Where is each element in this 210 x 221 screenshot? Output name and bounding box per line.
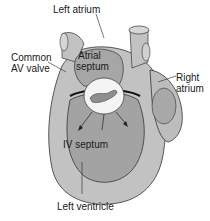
- label-iv-septum: IV septum: [63, 139, 108, 150]
- heart-illustration: [0, 0, 210, 221]
- vessel-left-opening: [60, 33, 68, 51]
- label-atrial-septum-1: Atrial: [78, 50, 101, 61]
- label-common-av-valve-2: AV valve: [11, 63, 50, 74]
- leader-left-atrium: [96, 14, 104, 38]
- label-right-atrium-2: atrium: [176, 83, 204, 94]
- label-common-av-valve-1: Common: [11, 52, 52, 63]
- heart-diagram: Left atrium Common AV valve Atrial septu…: [0, 0, 210, 221]
- right-atrium-chamber: [152, 88, 176, 124]
- label-atrial-septum-2: septum: [76, 61, 109, 72]
- label-left-atrium: Left atrium: [53, 4, 100, 15]
- label-left-ventricle: Left ventricle: [57, 201, 114, 212]
- vessel-right-opening: [129, 26, 149, 34]
- label-right-atrium-1: Right: [176, 72, 199, 83]
- vessel-side-opening: [142, 43, 150, 61]
